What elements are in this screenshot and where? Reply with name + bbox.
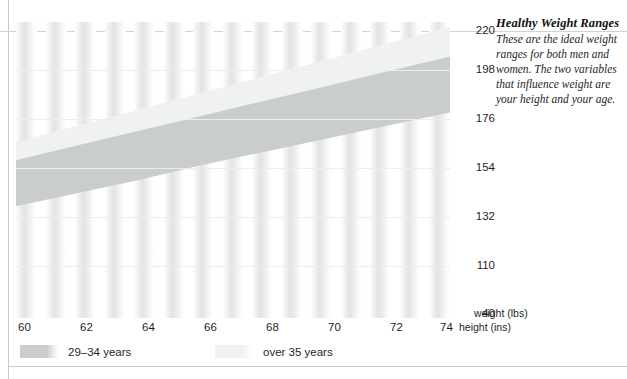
legend-item-over-35[interactable]: over 35 years [215,345,333,358]
gridline-132 [16,217,450,218]
side-note-title: Healthy Weight Ranges [496,16,622,31]
gridline-176 [16,119,450,120]
gridline-198 [16,70,450,71]
x-tick-66: 66 [204,321,217,333]
y-tick-220: 220 [476,24,495,36]
page-border-bottom [8,366,627,367]
y-tick-110: 110 [477,259,495,271]
legend-swatch-29-34 [20,345,58,358]
legend-item-29-34[interactable]: 29–34 years [20,345,131,358]
legend-label-29-34: 29–34 years [68,346,131,358]
legend-swatch-over-35 [215,345,253,358]
side-note: Healthy Weight Ranges These are the idea… [496,16,622,107]
y-tick-132: 132 [476,210,495,222]
x-axis: 60 62 64 66 68 70 72 74 [0,321,470,339]
chart-legend: 29–34 years over 35 years [20,345,440,363]
weight-range-bands [16,22,450,318]
y-tick-198: 198 [476,63,495,75]
chart-plot-area [16,22,450,318]
x-tick-60: 60 [18,321,31,333]
y-axis: 220 198 176 154 132 110 40 [455,0,495,340]
x-tick-62: 62 [80,321,93,333]
x-tick-70: 70 [328,321,341,333]
legend-label-over-35: over 35 years [263,346,333,358]
y-tick-154: 154 [476,161,495,173]
x-tick-64: 64 [142,321,155,333]
x-tick-72: 72 [390,321,403,333]
y-axis-title: weight (lbs) [474,307,528,319]
y-tick-176: 176 [476,112,495,124]
x-tick-68: 68 [266,321,279,333]
gridline-154 [16,168,450,169]
x-axis-title: height (ins) [459,321,511,333]
side-note-body: These are the ideal weight ranges for bo… [496,32,622,107]
gridline-110 [16,266,450,267]
x-tick-74: 74 [440,321,453,333]
